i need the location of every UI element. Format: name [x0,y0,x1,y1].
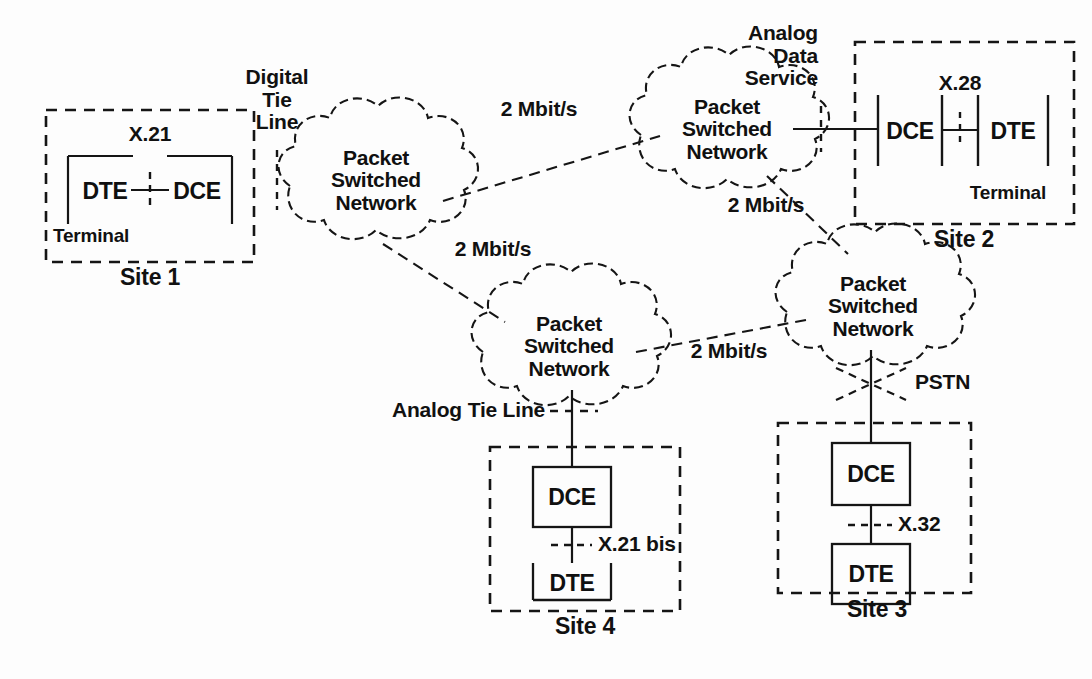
cloud-north-label: Packet Switched Network [682,96,772,163]
site-1-interface-label: X.21 [129,123,171,146]
site-4-dte-label: DTE [549,570,594,597]
site-1-dce-label: DCE [173,178,221,205]
site-3-dce-label: DCE [847,461,895,488]
link-north-east-label: 2 Mbit/s [728,194,805,217]
link-west-north-label: 2 Mbit/s [501,98,578,121]
link-west-south-label: 2 Mbit/s [455,238,532,261]
site-3-interface-label: X.32 [898,513,940,536]
site-4-interface-label: X.21 bis [598,533,676,556]
site-2-dce-label: DCE [886,118,934,145]
analog-data-service-label: Analog Data Service [745,22,818,90]
link-west-north-line [443,136,660,201]
site-2-enclosure-label: Terminal [970,183,1046,204]
digital-tie-line-label: Digital Tie Line [246,66,309,134]
cloud-west-label: Packet Switched Network [331,147,421,214]
pstn-label: PSTN [915,371,970,394]
site-4-dce-label: DCE [548,484,596,511]
site-3-name: Site 3 [847,597,907,622]
site-2-name: Site 2 [934,227,994,252]
diagram-canvas: Packet Switched Network Packet Switched … [0,0,1092,679]
link-south-east-label: 2 Mbit/s [691,340,768,363]
cloud-east-label: Packet Switched Network [828,273,918,340]
cloud-south-label: Packet Switched Network [524,313,614,380]
site-1-name: Site 1 [120,265,180,290]
site-2-dte-label: DTE [990,118,1035,145]
site-4-name: Site 4 [555,614,615,639]
site-1-enclosure-label: Terminal [53,226,129,247]
site-2-interface-label: X.28 [939,72,981,95]
site-1-dte-label: DTE [82,178,127,205]
analog-tie-line-label: Analog Tie Line [392,399,545,422]
site-3-dte-label: DTE [848,561,893,588]
